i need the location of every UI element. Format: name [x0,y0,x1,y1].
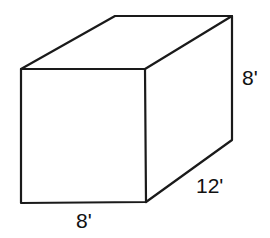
width-label: 8' [76,209,92,232]
height-label: 8' [242,66,258,89]
rectangular-prism-diagram: 8' 12' 8' [0,0,270,238]
front-face [21,69,146,203]
top-face-edges [21,16,232,69]
depth-label: 12' [196,174,223,197]
